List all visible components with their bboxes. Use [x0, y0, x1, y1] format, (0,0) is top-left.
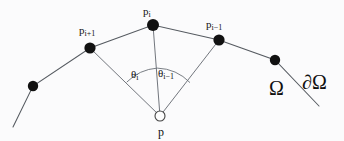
- node-p: [155, 111, 165, 121]
- label-theta-i: θi: [131, 69, 139, 80]
- label-p-i-plus-1-base: p: [79, 24, 85, 36]
- label-p-i-minus-1: pi−1: [206, 19, 222, 30]
- label-p-i-sub: i: [149, 10, 151, 19]
- label-theta-i-minus-1: θi−1: [158, 68, 174, 79]
- label-p-i-plus-1-sub: i+1: [85, 29, 96, 38]
- node-p-i: [147, 19, 159, 31]
- label-omega: Ω: [269, 78, 284, 98]
- label-p-i-base: p: [143, 5, 149, 17]
- label-theta-i-minus-1-sub: i−1: [163, 72, 174, 81]
- label-p-i-minus-1-sub: i−1: [212, 23, 223, 32]
- label-p: p: [158, 126, 164, 138]
- spoke-group: [90, 25, 219, 116]
- label-p-i: pi: [143, 6, 151, 17]
- geometry-diagram: pi pi+1 pi−1 θi θi−1 Ω ∂Ω p: [0, 0, 344, 141]
- node-left-extra: [28, 81, 38, 91]
- spoke-p-to-p-i-plus-1: [90, 48, 160, 116]
- label-theta-i-sub: i: [136, 73, 138, 82]
- label-p-i-minus-1-base: p: [206, 18, 212, 30]
- node-right-extra: [270, 55, 280, 65]
- node-p-i-minus-1: [213, 34, 224, 45]
- label-p-i-plus-1: pi+1: [79, 25, 95, 36]
- label-boundary-omega: ∂Ω: [302, 72, 327, 92]
- node-p-i-plus-1: [84, 42, 95, 53]
